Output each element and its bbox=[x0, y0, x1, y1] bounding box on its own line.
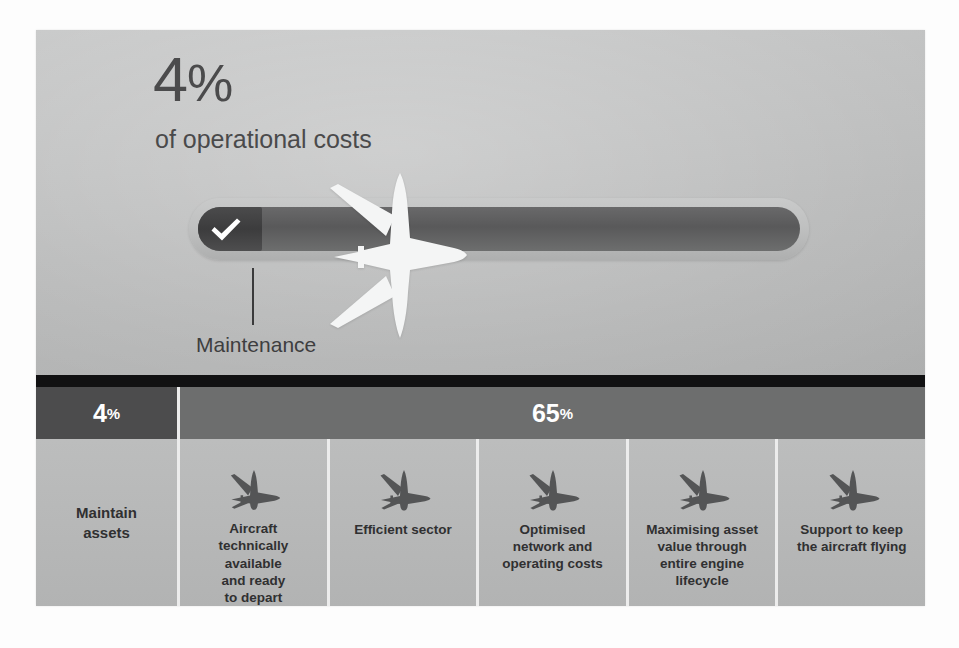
callout-leader-line bbox=[252, 268, 254, 325]
airplane-icon bbox=[225, 469, 281, 510]
card-optimised-network[interactable]: Optimisednetwork andoperating costs bbox=[479, 439, 629, 606]
card-label: Maximising assetvalue throughentire engi… bbox=[646, 521, 758, 590]
card-aircraft-available[interactable]: Aircrafttechnicallyavailableand readyto … bbox=[180, 439, 330, 606]
card-support-aircraft-flying[interactable]: Support to keepthe aircraft flying bbox=[778, 439, 925, 606]
card-label: Optimisednetwork andoperating costs bbox=[502, 521, 603, 572]
card-efficient-sector[interactable]: Efficient sector bbox=[330, 439, 480, 606]
card-label: Support to keepthe aircraft flying bbox=[797, 521, 907, 555]
scanned-page: 4% of operational costs bbox=[0, 0, 959, 648]
hero-subtitle: of operational costs bbox=[155, 125, 372, 154]
percentage-header-row: 4% 65% bbox=[36, 387, 925, 439]
header-cell-operations-percent: 65% bbox=[180, 387, 925, 439]
header-right-number: 65 bbox=[532, 399, 560, 428]
airplane-icon bbox=[375, 469, 431, 511]
hero-big-stat-number: 4 bbox=[153, 44, 187, 114]
hero-big-stat: 4% bbox=[153, 48, 232, 111]
airplane-icon bbox=[674, 469, 730, 511]
airplane-silhouette-icon bbox=[304, 172, 484, 340]
card-label: Maintainassets bbox=[76, 503, 137, 542]
airplane-icon bbox=[524, 469, 580, 511]
progress-bar[interactable] bbox=[189, 198, 809, 260]
card-maintain-assets[interactable]: Maintainassets bbox=[36, 439, 180, 606]
hero-big-stat-percent: % bbox=[187, 54, 232, 112]
header-left-number: 4 bbox=[93, 399, 107, 428]
card-label: Aircrafttechnicallyavailableand readyto … bbox=[218, 520, 288, 606]
separator-band bbox=[36, 375, 925, 387]
header-right-percent: % bbox=[560, 405, 573, 422]
progress-bar-track bbox=[198, 207, 800, 251]
header-cell-maintenance-percent: 4% bbox=[36, 387, 180, 439]
cards-row: Maintainassets Aircrafttechnicallyavaila… bbox=[36, 439, 925, 606]
card-label: Efficient sector bbox=[354, 521, 452, 538]
card-maximising-asset-value[interactable]: Maximising assetvalue throughentire engi… bbox=[629, 439, 779, 606]
callout-label-maintenance: Maintenance bbox=[196, 333, 316, 357]
airplane-icon bbox=[824, 469, 880, 511]
check-icon bbox=[209, 217, 243, 243]
header-left-percent: % bbox=[107, 405, 120, 422]
slide-panel: 4% of operational costs bbox=[36, 30, 925, 606]
hero-section: 4% of operational costs bbox=[36, 30, 925, 375]
